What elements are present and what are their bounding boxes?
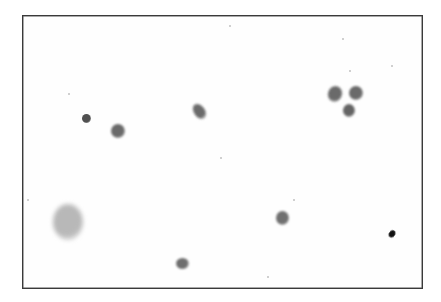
cluster-cell-bottom [343,104,355,117]
debris-speck [229,25,231,27]
round-cell [111,124,125,138]
crescent-cell-bottom [176,258,189,269]
debris-speck [293,199,295,201]
debris-speck [349,70,351,72]
cluster-cell-right [349,86,363,100]
small-dark-round-cell [82,114,91,123]
faint-smudge [53,204,83,240]
debris-speck [68,93,70,95]
debris-speck [342,38,344,40]
debris-speck [391,65,393,67]
debris-speck [267,276,269,278]
lobed-cell-lower-right [276,211,289,225]
debris-speck [27,199,29,201]
debris-speck [220,157,222,159]
micrograph-frame [22,15,423,289]
